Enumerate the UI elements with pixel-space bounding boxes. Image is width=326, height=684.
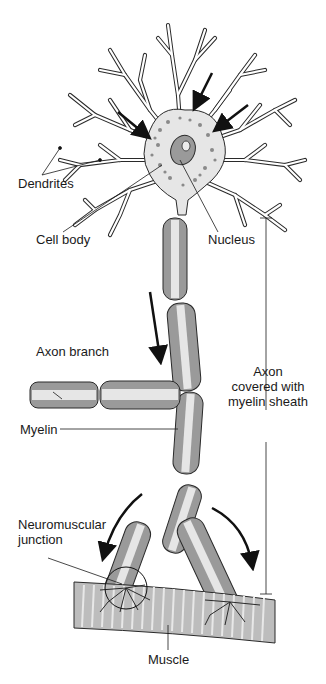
label-nucleus: Nucleus	[208, 232, 255, 247]
muscle-fiber	[74, 582, 275, 643]
arrow-icon	[150, 292, 160, 358]
label-axon-line3: myelin sheath	[226, 394, 310, 409]
label-dendrites: Dendrites	[18, 176, 74, 191]
label-axon-line2: covered with	[226, 379, 310, 394]
label-neuromuscular-line1: Neuromuscular	[18, 517, 106, 532]
label-axon-line1: Axon	[226, 364, 310, 379]
label-muscle: Muscle	[148, 652, 189, 667]
neuron-diagram: Dendrites Cell body Nucleus Axon branch …	[0, 0, 326, 684]
neuron-illustration	[0, 0, 326, 684]
label-cell-body: Cell body	[36, 232, 90, 247]
arrow-icon	[196, 73, 212, 105]
axon-branch	[30, 381, 180, 409]
label-axon-branch: Axon branch	[36, 344, 109, 359]
cell-body	[144, 109, 225, 215]
label-myelin: Myelin	[20, 422, 58, 437]
label-neuromuscular-line2: junction	[18, 532, 63, 547]
